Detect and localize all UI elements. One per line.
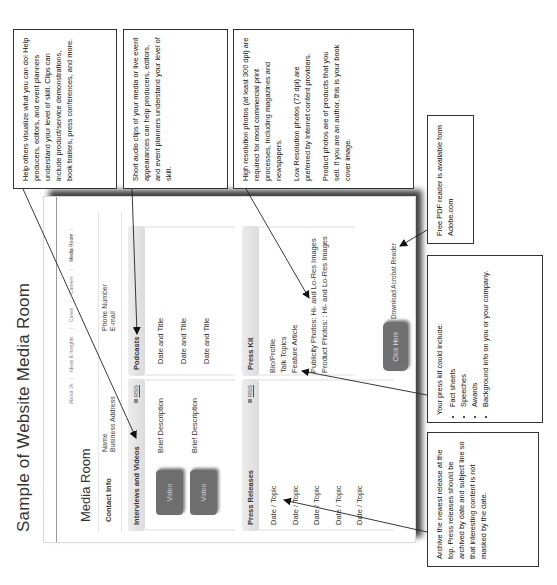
annotation-pdf-reader-text: Free PDF reader is available form Adobe.… — [434, 123, 456, 236]
video-description-2: Brief Description — [190, 398, 199, 453]
bullet-awards: Awards — [469, 263, 480, 407]
annotation-press-kit: Your press kit could include: Fact sheet… — [427, 255, 543, 423]
podcast-item-1[interactable]: Date and Title — [156, 318, 165, 364]
press-releases-section-body — [259, 379, 394, 531]
annotation-press-kit-intro: Your press kit could include: — [434, 263, 445, 415]
video-description-1: Brief Description — [156, 398, 165, 453]
nav-separator: | — [68, 301, 74, 302]
bullet-speeches: Speeches — [458, 263, 469, 407]
press-releases-rss-link[interactable]: RSS — [242, 385, 259, 403]
press-kit-title: Press Kit — [246, 337, 255, 370]
nav-about-us[interactable]: About Us — [68, 383, 74, 404]
publicity-photos-link[interactable]: Publicity Photos: Hi- and Lo-Res Images — [308, 236, 319, 373]
contact-phone-email: Phone Number E-mail — [101, 284, 117, 331]
press-releases-title: Press Releases — [246, 470, 255, 525]
nav-divider — [56, 197, 57, 542]
press-release-item-1[interactable]: Date / Topic — [269, 486, 278, 525]
interviews-section-header: Interviews and Videos RSS — [128, 379, 145, 531]
interviews-rss-link[interactable]: RSS — [128, 385, 145, 403]
press-kit-talk-topics[interactable]: Talk Topics — [278, 325, 289, 373]
annotation-videos-text: Help others visualize what you can do! H… — [20, 37, 75, 181]
rss-icon — [134, 399, 138, 403]
annotation-videos: Help others visualize what you can do! H… — [13, 29, 117, 189]
press-release-item-2[interactable]: Date / Topic — [291, 486, 300, 525]
nav-cases[interactable]: Cases — [68, 308, 74, 322]
download-acrobat-link[interactable]: Download Acrobat Reader — [390, 243, 397, 319]
nav-careers[interactable]: Careers — [68, 276, 74, 294]
contact-divider-top — [98, 212, 99, 532]
annotation-press-releases: Archive the newest release at the top. P… — [427, 432, 539, 567]
annotation-pdf-reader: Free PDF reader is available form Adobe.… — [427, 115, 474, 244]
contact-info-label: Contact Info — [104, 478, 113, 522]
press-kit-feature-article[interactable]: Feature Article — [289, 325, 300, 373]
website-mockup: About Us | Ideas & Insights | Cases | Ca… — [43, 196, 416, 543]
bullet-fact-sheets: Fact sheets — [447, 263, 458, 407]
press-release-item-5[interactable]: Date / Topic — [355, 486, 364, 525]
interviews-title: Interviews and Videos — [132, 446, 141, 525]
product-photos-link[interactable]: Product Photos: : Hi- and Lo-Res Images — [319, 236, 330, 373]
annotation-photos: High resolution photos (at least 300 dpi… — [233, 29, 414, 189]
rotated-page: Sample of Website Media Room About Us | … — [0, 0, 557, 585]
video-button-1[interactable]: Video — [156, 470, 183, 515]
press-kit-section-header: Press Kit — [242, 226, 259, 376]
click-here-button[interactable]: Click Here — [383, 322, 408, 371]
contact-email: E-mail — [109, 284, 117, 331]
podcasts-section-header: Podcasts — [128, 226, 145, 376]
contact-divider-bottom — [121, 212, 122, 532]
press-kit-bio[interactable]: Bio/Profile — [267, 325, 278, 373]
annotation-photos-product: Product photos are of products that you … — [320, 37, 353, 181]
contact-name-address: Name Business Address — [101, 396, 117, 452]
nav-separator: | — [68, 328, 74, 329]
rss-icon — [248, 399, 252, 403]
annotation-photos-hires: High resolution photos (at least 300 dpi… — [240, 37, 284, 181]
annotation-press-kit-bullets: Fact sheets Speeches Awards Background i… — [447, 263, 491, 415]
press-kit-photos-list: Publicity Photos: Hi- and Lo-Res Images … — [308, 236, 330, 373]
document-title: Sample of Website Media Room — [14, 283, 34, 532]
nav-ideas-insights[interactable]: Ideas & Insights — [68, 336, 74, 372]
press-releases-section-header: Press Releases RSS — [242, 379, 259, 531]
nav-separator: | — [68, 378, 74, 379]
annotation-press-releases-text: Archive the newest release at the top. P… — [434, 440, 489, 559]
page-heading: Media Room — [78, 448, 93, 522]
press-release-item-3[interactable]: Date / Topic — [312, 486, 321, 525]
contact-phone: Phone Number — [101, 284, 109, 331]
nav-media-room[interactable]: Media Room — [68, 234, 74, 262]
podcast-item-2[interactable]: Date and Title — [179, 318, 188, 364]
contact-name: Name — [101, 396, 109, 452]
nav-separator: | — [68, 229, 74, 230]
contact-address: Business Address — [109, 396, 117, 452]
video-button-2[interactable]: Video — [190, 470, 217, 515]
annotation-photos-lores: Low Resolution photos (72 dpi) are prefe… — [291, 37, 313, 181]
press-kit-list: Bio/Profile Talk Topics Feature Article — [267, 325, 300, 373]
bullet-background: Background info on you or your company. — [480, 263, 491, 407]
annotation-podcasts-text: Short audio clips of your media or live … — [130, 37, 174, 181]
podcasts-title: Podcasts — [132, 337, 141, 370]
podcast-item-3[interactable]: Date and Title — [202, 318, 211, 364]
nav-separator: | — [68, 269, 74, 270]
press-release-item-4[interactable]: Date / Topic — [334, 486, 343, 525]
annotation-podcasts: Short audio clips of your media or live … — [123, 29, 228, 189]
